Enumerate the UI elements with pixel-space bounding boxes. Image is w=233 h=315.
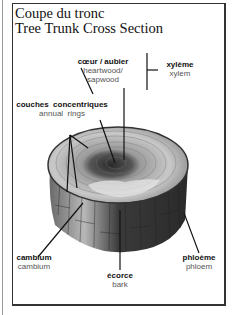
- label-cambium-en: cambium: [14, 262, 54, 271]
- label-heartwood: cœur / aubier heartwood/ sapwood: [70, 57, 136, 84]
- label-rings: couches concentriques annual rings: [12, 100, 112, 118]
- label-phloem: phloème phloem: [177, 253, 221, 271]
- label-sapwood-en: sapwood: [70, 75, 136, 84]
- label-cambium: cambium cambium: [14, 253, 54, 271]
- label-bark-fr: écorce: [100, 271, 140, 280]
- label-phloem-en: phloem: [177, 262, 221, 271]
- label-xylem-fr: xylème: [160, 60, 200, 69]
- label-heartwood-fr: cœur / aubier: [70, 57, 136, 66]
- label-bark-en: bark: [100, 280, 140, 289]
- label-phloem-fr: phloème: [177, 253, 221, 262]
- label-rings-fr: couches concentriques: [12, 100, 112, 109]
- label-cambium-fr: cambium: [14, 253, 54, 262]
- label-heartwood-en: heartwood/: [70, 66, 136, 75]
- label-bark: écorce bark: [100, 271, 140, 289]
- label-rings-en: annual rings: [12, 109, 112, 118]
- label-xylem: xylème xylem: [160, 60, 200, 78]
- label-xylem-en: xylem: [160, 69, 200, 78]
